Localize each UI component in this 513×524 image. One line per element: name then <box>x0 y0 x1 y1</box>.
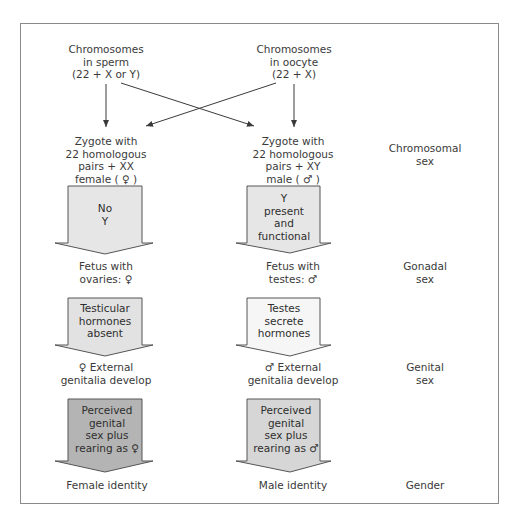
female-fetus-label: Fetus with ovaries: ♀ <box>79 260 133 285</box>
male-arrow-2-text: Testes secrete hormones <box>258 302 310 340</box>
oocyte-to-female-arrow <box>146 83 276 126</box>
male-zygote-label: Zygote with 22 homologous pairs + XY mal… <box>253 135 334 185</box>
male-fetus-label: Fetus with testes: ♂ <box>266 260 320 285</box>
sperm-chromosomes-label: Chromosomes in sperm (22 + X or Y) <box>68 43 143 81</box>
female-zygote-label: Zygote with 22 homologous pairs + XX fem… <box>66 135 147 185</box>
category-genital-sex: Genital sex <box>406 361 444 386</box>
female-genitalia-label: ♀ External genitalia develop <box>61 361 152 386</box>
female-arrow-3-text: Perceived genital sex plus rearing as ♀ <box>75 404 139 454</box>
female-arrow-1-text: No Y <box>98 202 112 227</box>
female-identity-label: Female identity <box>66 479 147 492</box>
category-gender: Gender <box>406 479 445 492</box>
male-genitalia-label: ♂ External genitalia develop <box>248 361 339 386</box>
male-arrow-1-text: Y present and functional <box>258 192 310 242</box>
category-chromosomal-sex: Chromosomal sex <box>389 142 462 167</box>
category-gonadal-sex: Gonadal sex <box>403 260 447 285</box>
male-identity-label: Male identity <box>259 479 327 492</box>
female-arrow-2-text: Testicular hormones absent <box>79 302 131 340</box>
male-arrow-3-text: Perceived genital sex plus rearing as ♂ <box>253 404 319 454</box>
sperm-to-male-arrow <box>121 83 254 126</box>
oocyte-chromosomes-label: Chromosomes in oocyte (22 + X) <box>256 43 331 81</box>
